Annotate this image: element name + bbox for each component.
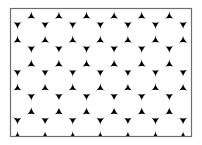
circle xyxy=(155,66,184,95)
packing-area xyxy=(0,0,202,145)
circle xyxy=(141,42,170,71)
circle xyxy=(86,42,115,71)
circle xyxy=(141,90,170,119)
circle xyxy=(100,18,129,47)
circle xyxy=(100,66,129,95)
circle xyxy=(58,90,87,119)
circle xyxy=(31,90,60,119)
circle xyxy=(31,42,60,71)
circle-packing-diagram xyxy=(0,0,202,145)
circle xyxy=(114,42,143,71)
circle xyxy=(86,90,115,119)
circle xyxy=(58,42,87,71)
circle xyxy=(17,66,46,95)
circle xyxy=(114,90,143,119)
circle xyxy=(72,18,101,47)
circle xyxy=(17,18,46,47)
circle xyxy=(155,18,184,47)
circle xyxy=(45,18,74,47)
circle xyxy=(127,66,156,95)
circle xyxy=(127,18,156,47)
circle xyxy=(72,66,101,95)
circle xyxy=(45,66,74,95)
